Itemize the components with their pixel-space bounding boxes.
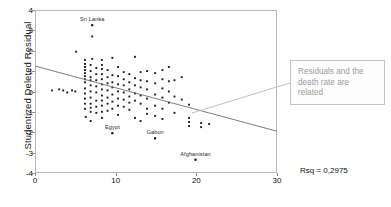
callout-text: Residuals and the death rate are related — [298, 67, 378, 99]
y-tick-label: -2 — [7, 128, 33, 137]
x-tick-label: 20 — [181, 176, 211, 185]
scatter-point-label: Sri Lanka — [80, 16, 105, 22]
y-tick-label: 2 — [7, 46, 33, 55]
scatter-point-label: Gabon — [147, 129, 164, 135]
x-tick-label: 0 — [20, 176, 50, 185]
y-tick-label: -1 — [7, 107, 33, 116]
y-tick-label: -3 — [7, 148, 33, 157]
x-tick-mark — [277, 173, 278, 176]
rsq-statistic: Rsq = 0,2975 — [300, 166, 348, 175]
x-tick-mark — [196, 173, 197, 176]
x-tick-mark — [116, 173, 117, 176]
scatter-plot-figure: Studentized Deleted Residual 43210-1-2-3… — [0, 0, 391, 207]
scatter-point-label: Afghanistan — [180, 151, 211, 157]
y-tick-label: 3 — [7, 26, 33, 35]
x-tick-label: 10 — [101, 176, 131, 185]
plot-area — [35, 10, 277, 173]
scatter-point-label: Egypt — [105, 124, 120, 130]
x-tick-label: 30 — [262, 176, 292, 185]
y-tick-label: 4 — [7, 6, 33, 15]
y-tick-label: 1 — [7, 67, 33, 76]
y-tick-label: 0 — [7, 87, 33, 96]
callout-box: Residuals and the death rate are related — [290, 60, 385, 105]
x-tick-mark — [35, 173, 36, 176]
